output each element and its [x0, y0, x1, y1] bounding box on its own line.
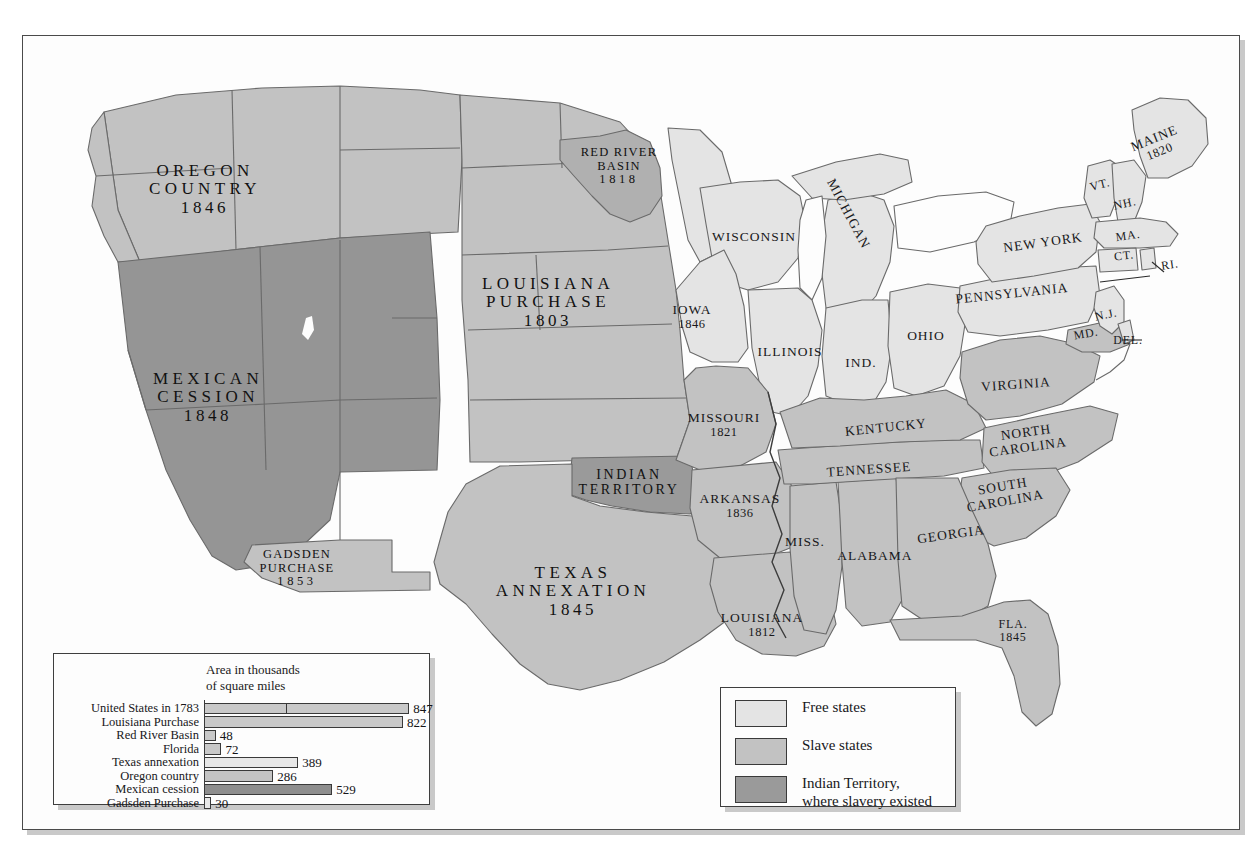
chart-bar-track: 822: [204, 716, 431, 730]
legend-swatch-slave-states: [735, 738, 787, 765]
chart-title-line2: of square miles: [206, 678, 300, 694]
map-page: OREGONCOUNTRY1846MEXICANCESSION1848GADSD…: [0, 0, 1253, 864]
state-new-hampshire: [1112, 160, 1146, 222]
lake-michigan: [798, 196, 826, 300]
state-kentucky: [780, 390, 986, 448]
legend-label-line: Slave states: [802, 737, 872, 755]
state-michigan-upper: [792, 154, 912, 200]
pointer-long-island: [1100, 276, 1150, 282]
legend-item-slave-states: Slave states: [735, 737, 955, 765]
legend-label-indian-territory: Indian Territory,where slavery existed: [802, 775, 932, 810]
state-massachusetts: [1094, 218, 1178, 248]
state-connecticut: [1098, 248, 1138, 272]
chart-bar-track: 72: [204, 743, 431, 757]
chart-bar-track: 389: [204, 756, 431, 770]
chart-bar-divider: [286, 704, 287, 714]
legend-label-line: where slavery existed: [802, 793, 932, 811]
chart-title-line1: Area in thousands: [206, 662, 300, 678]
chart-bar: [204, 743, 221, 755]
chart-row: Florida72: [54, 743, 431, 757]
chart-row: Gadsden Purchase30: [54, 797, 431, 811]
map-legend: Free statesSlave statesIndian Territory,…: [720, 687, 956, 807]
chart-bar: [204, 784, 332, 796]
chart-bar-track: 30: [204, 797, 431, 811]
legend-label-slave-states: Slave states: [802, 737, 872, 755]
chart-bar-track: 286: [204, 770, 431, 784]
chart-row: Red River Basin48: [54, 729, 431, 743]
chart-bar: [204, 770, 273, 782]
chart-row: Louisiana Purchase822: [54, 716, 431, 730]
state-maine: [1132, 98, 1208, 178]
chart-row-label: Gadsden Purchase: [54, 796, 204, 811]
region-gadsden-purchase: [244, 540, 430, 592]
legend-swatch-free-states: [735, 700, 787, 727]
chart-row: Texas annexation389: [54, 756, 431, 770]
state-alabama: [838, 478, 904, 626]
legend-label-line: Free states: [802, 699, 866, 717]
legend-rows: Free statesSlave statesIndian Territory,…: [735, 699, 955, 810]
chart-bar: [204, 716, 403, 728]
chart-bar-track: 847: [204, 702, 431, 716]
chart-bar-value: 30: [215, 796, 228, 812]
chart-row: Oregon country286: [54, 770, 431, 784]
state-indiana: [822, 300, 892, 404]
legend-item-indian-territory: Indian Territory,where slavery existed: [735, 775, 955, 810]
legend-label-line: Indian Territory,: [802, 775, 932, 793]
chart-bar-track: 48: [204, 729, 431, 743]
legend-label-free-states: Free states: [802, 699, 866, 717]
legend-swatch-indian-territory: [735, 776, 787, 803]
region-mexican-cession: [118, 232, 440, 570]
chart-bar-track: 529: [204, 783, 431, 797]
chart-rows: United States in 1783847Louisiana Purcha…: [54, 702, 431, 810]
chart-bar: [204, 730, 216, 742]
legend-item-free-states: Free states: [735, 699, 955, 727]
state-rhode-island: [1140, 248, 1156, 270]
chart-row: Mexican cession529: [54, 783, 431, 797]
chart-bar: [204, 703, 409, 715]
chart-row: United States in 1783847: [54, 702, 431, 716]
chart-bar: [204, 797, 211, 809]
state-ohio: [888, 284, 966, 396]
chart-title: Area in thousands of square miles: [206, 662, 300, 695]
chart-bar: [204, 757, 298, 769]
area-bar-chart: Area in thousands of square miles United…: [53, 653, 430, 805]
